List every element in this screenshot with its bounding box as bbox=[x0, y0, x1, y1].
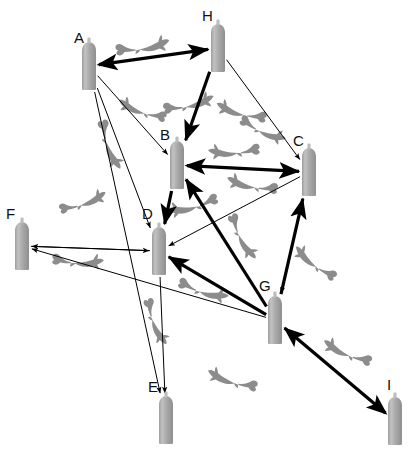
node-A[interactable] bbox=[82, 38, 96, 91]
edge-C-G bbox=[281, 198, 303, 293]
node-G[interactable] bbox=[268, 292, 282, 345]
edge-G-B bbox=[186, 179, 266, 306]
network-diagram-canvas: ABCDEFGHI bbox=[0, 0, 414, 449]
shark-icon bbox=[162, 90, 216, 116]
shark-icon bbox=[208, 141, 261, 160]
node-label-F: F bbox=[6, 206, 15, 221]
node-label-A: A bbox=[74, 30, 84, 45]
node-I[interactable] bbox=[388, 393, 402, 446]
shark-icon bbox=[165, 190, 219, 219]
shark-icon bbox=[205, 365, 259, 394]
node-F[interactable] bbox=[15, 218, 29, 271]
shark-icon bbox=[52, 251, 105, 270]
node-label-I: I bbox=[387, 377, 391, 392]
edge-B-D bbox=[165, 191, 172, 224]
node-D[interactable] bbox=[152, 223, 166, 276]
node-label-B: B bbox=[160, 127, 170, 142]
node-label-H: H bbox=[202, 8, 213, 23]
node-label-D: D bbox=[142, 206, 153, 221]
edge-B-C bbox=[187, 166, 299, 172]
node-label-G: G bbox=[259, 278, 271, 293]
edge-A-E bbox=[95, 92, 160, 393]
shark-icon bbox=[57, 187, 108, 216]
node-H[interactable] bbox=[211, 20, 225, 73]
diagram-graphics-layer bbox=[0, 0, 414, 449]
edge-I-G bbox=[285, 328, 386, 413]
edge-F-D bbox=[31, 246, 149, 250]
node-B[interactable] bbox=[170, 137, 184, 190]
node-E[interactable] bbox=[159, 392, 173, 445]
node-C[interactable] bbox=[302, 144, 316, 197]
node-label-C: C bbox=[293, 133, 304, 148]
shark-icon bbox=[116, 94, 168, 124]
shark-icon bbox=[225, 211, 261, 263]
edge-H-C bbox=[227, 60, 300, 160]
shark-icon bbox=[291, 242, 340, 284]
edge-H-A bbox=[99, 49, 209, 64]
node-label-E: E bbox=[148, 379, 158, 394]
shark-icon bbox=[141, 296, 172, 347]
